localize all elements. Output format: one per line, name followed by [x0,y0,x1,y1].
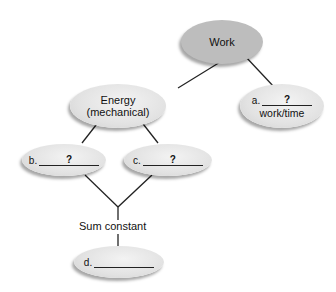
node-work: Work [181,20,263,64]
node-power-prefix: a. [252,95,260,106]
node-kinetic: b. ? [22,144,106,176]
node-kinetic-prefix: b. [29,155,37,166]
node-potential-blank: ? [143,154,203,166]
node-power: a. ? work/time [240,84,324,128]
node-energy: Energy (mechanical) [70,84,166,128]
node-power-blank: ? [262,94,312,106]
sum-constant-label: Sum constant [78,220,147,232]
node-conservation-prefix: d. [84,257,92,268]
node-potential-prefix: c. [133,155,141,166]
node-work-label: Work [209,36,234,48]
node-conservation-blank [94,256,154,268]
node-power-subtext: work/time [260,107,305,119]
node-potential: c. ? [124,144,212,176]
node-conservation: d. [74,246,164,278]
node-kinetic-blank: ? [39,154,99,166]
node-energy-line1: Energy [101,94,136,106]
node-energy-line2: (mechanical) [87,106,150,118]
